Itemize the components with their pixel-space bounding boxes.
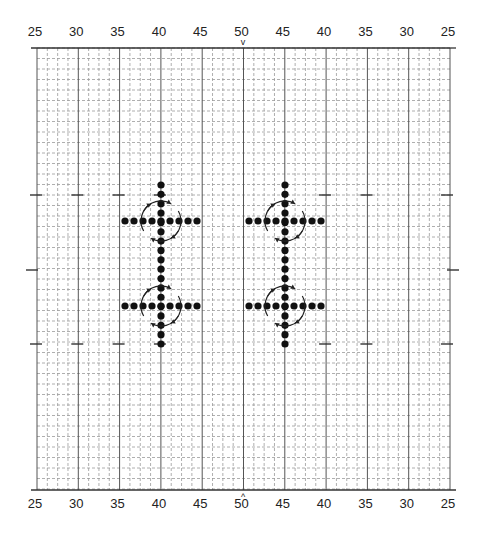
dancer-dot <box>281 340 288 347</box>
bottom-axis-label: 45 <box>193 496 207 511</box>
dancer-dot <box>290 302 297 309</box>
dancer-dot <box>184 302 191 309</box>
dancer-dot <box>193 217 200 224</box>
bottom-axis-label: 30 <box>399 496 413 511</box>
bottom-axis-label: 35 <box>110 496 124 511</box>
top-axis-label: 35 <box>358 24 372 39</box>
center-marker-top: v <box>241 37 246 47</box>
dancer-dot <box>281 256 288 263</box>
bottom-axis-label: 30 <box>69 496 83 511</box>
top-axis-label: 30 <box>69 24 83 39</box>
top-axis-label: 40 <box>317 24 331 39</box>
bottom-axis-label: 45 <box>276 496 290 511</box>
dancer-dot <box>157 217 164 224</box>
dancer-dot <box>157 302 164 309</box>
dancer-dot <box>317 217 324 224</box>
dancer-dot <box>308 302 315 309</box>
dancer-dot <box>281 312 288 319</box>
dancer-dot <box>245 217 252 224</box>
bottom-axis-label: 40 <box>152 496 166 511</box>
dancer-dot <box>157 247 164 254</box>
top-axis-label: 45 <box>193 24 207 39</box>
rotation-arc <box>265 289 275 316</box>
dancer-dot <box>157 340 164 347</box>
top-axis-label: 35 <box>110 24 124 39</box>
dancer-dot <box>148 217 155 224</box>
dancer-dot <box>272 302 279 309</box>
dancer-dot <box>166 217 173 224</box>
rotation-arc <box>141 204 151 231</box>
rotation-arc <box>265 204 275 231</box>
dancer-dot <box>317 302 324 309</box>
dancer-dot <box>281 302 288 309</box>
dancer-dot <box>254 217 261 224</box>
side-dash-markers <box>26 195 459 344</box>
bottom-axis-label: 40 <box>317 496 331 511</box>
dancer-dot <box>166 302 173 309</box>
dancer-dot <box>281 228 288 235</box>
dancer-dot <box>157 209 164 216</box>
dancer-dot <box>281 209 288 216</box>
dancer-dot <box>254 302 261 309</box>
dancer-dot <box>281 181 288 188</box>
top-axis-label: 25 <box>441 24 455 39</box>
bottom-axis-label: 25 <box>441 496 455 511</box>
dancer-dot <box>121 302 128 309</box>
dancer-dot <box>130 302 137 309</box>
dancer-dot <box>281 217 288 224</box>
dancer-dot <box>157 256 164 263</box>
dancer-dot <box>281 247 288 254</box>
dancer-dot <box>245 302 252 309</box>
dancer-dot <box>308 217 315 224</box>
dancer-dot <box>281 191 288 198</box>
dancer-dot <box>157 266 164 273</box>
dancer-dot <box>157 228 164 235</box>
dancer-dot <box>157 294 164 301</box>
dancer-dot <box>157 275 164 282</box>
dancer-dot <box>193 302 200 309</box>
dancer-dot <box>281 294 288 301</box>
dancer-dot <box>121 217 128 224</box>
dancer-dot <box>148 302 155 309</box>
top-axis-label: 40 <box>152 24 166 39</box>
rotation-arc <box>141 289 151 316</box>
dancer-dot <box>184 217 191 224</box>
top-axis-label: 45 <box>276 24 290 39</box>
dancer-dot <box>281 275 288 282</box>
top-axis-label: 30 <box>399 24 413 39</box>
dancer-dot <box>157 312 164 319</box>
dancer-dot <box>281 266 288 273</box>
bottom-axis-label: 35 <box>358 496 372 511</box>
grid <box>31 48 456 490</box>
dancer-dot <box>157 181 164 188</box>
dancer-dot <box>157 191 164 198</box>
dancer-dot <box>290 217 297 224</box>
top-axis-label: 25 <box>28 24 42 39</box>
formation-chart: 2530354045504540353025 25303540455045403… <box>0 0 486 535</box>
bottom-axis-label: 25 <box>28 496 42 511</box>
dancer-dot <box>157 331 164 338</box>
dancer-dot <box>272 217 279 224</box>
dancer-dot <box>130 217 137 224</box>
dancer-dot <box>281 331 288 338</box>
